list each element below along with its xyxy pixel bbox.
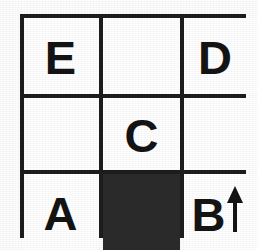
cell-label-e: E bbox=[45, 34, 76, 81]
grid-cell-r1c1[interactable]: E bbox=[24, 18, 99, 94]
cell-label-c: C bbox=[125, 112, 159, 159]
grid-cell-r3c1[interactable]: A bbox=[24, 174, 99, 250]
grid-cell-r3c2-filled[interactable] bbox=[103, 174, 180, 250]
grid-cell-r2c3[interactable] bbox=[184, 98, 258, 170]
cell-label-d: D bbox=[198, 34, 232, 81]
grid-cell-r3c3[interactable]: B bbox=[184, 174, 258, 250]
cell-label-a: A bbox=[44, 190, 78, 237]
grid-cell-r2c2[interactable]: C bbox=[103, 98, 180, 170]
cell-label-b: B bbox=[192, 191, 226, 238]
cell-b-group: B bbox=[192, 189, 245, 239]
arrow-up-icon bbox=[226, 184, 244, 234]
grid-cell-r2c1[interactable] bbox=[24, 98, 99, 170]
grid-cell-r1c3[interactable]: D bbox=[184, 18, 258, 94]
grid-cell-r1c2[interactable] bbox=[103, 18, 180, 94]
diagram-canvas: E D C A B bbox=[0, 0, 258, 250]
grid-container: E D C A B bbox=[20, 14, 246, 238]
